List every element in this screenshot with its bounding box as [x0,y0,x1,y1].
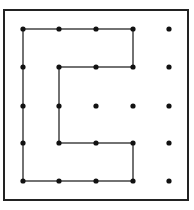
grid-dot [56,103,61,108]
grid-dot [93,64,98,69]
grid-dot [20,103,25,108]
grid-dot [20,26,25,31]
grid-dot [130,26,135,31]
c-shape-path [23,29,133,181]
grid-dot [166,140,171,145]
dot-grid-diagram [0,0,194,210]
grid-dot [20,64,25,69]
grid-dot [93,140,98,145]
grid-dots [20,26,171,183]
grid-dot [130,103,135,108]
grid-dot [56,140,61,145]
grid-dot [130,140,135,145]
grid-dot [20,140,25,145]
grid-dot [56,26,61,31]
grid-dot [93,26,98,31]
grid-dot [166,103,171,108]
grid-dot [56,64,61,69]
grid-dot [166,64,171,69]
grid-dot [56,178,61,183]
grid-dot [130,64,135,69]
grid-dot [166,26,171,31]
grid-dot [166,178,171,183]
grid-dot [20,178,25,183]
grid-dot [93,178,98,183]
grid-dot [93,103,98,108]
grid-dot [130,178,135,183]
